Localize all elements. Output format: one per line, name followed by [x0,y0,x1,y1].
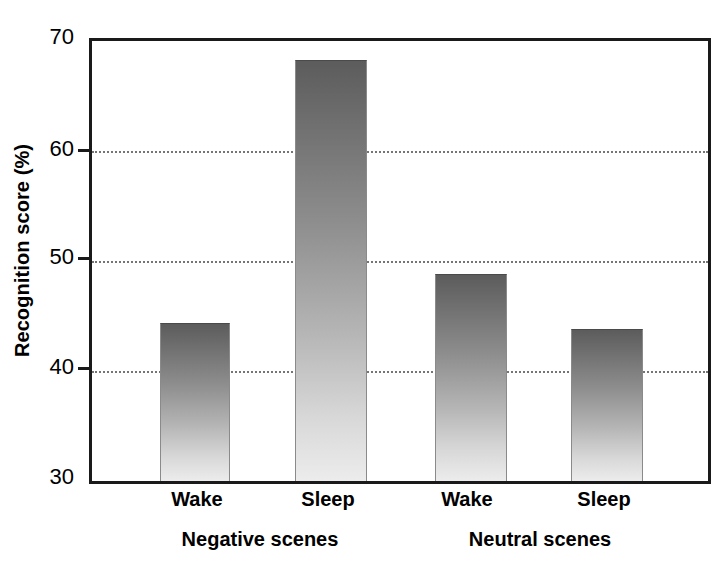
y-tick-mark-50 [78,257,89,260]
bar-negative-wake [160,323,230,481]
bar-neutral-sleep [571,329,643,481]
x-label-negative-wake: Wake [127,488,267,511]
y-tick-label-50: 50 [30,246,74,268]
y-tick-label-60: 60 [30,138,74,160]
y-tick-mark-40 [78,367,89,370]
y-axis-tick-labels: 70 60 50 40 30 [0,0,74,580]
gridline-50 [92,261,708,263]
x-label-negative-sleep: Sleep [258,488,398,511]
x-label-neutral-wake: Wake [397,488,537,511]
plot-area [89,38,711,484]
group-label-negative-scenes: Negative scenes [120,528,400,551]
group-label-neutral-scenes: Neutral scenes [400,528,680,551]
gridline-60 [92,151,708,153]
y-tick-mark-60 [78,149,89,152]
y-tick-label-70: 70 [30,26,74,48]
x-label-neutral-sleep: Sleep [534,488,674,511]
bar-neutral-wake [435,274,507,481]
plot-inner [92,41,708,481]
bar-negative-sleep [295,60,367,481]
y-tick-label-40: 40 [30,356,74,378]
y-tick-label-30: 30 [30,466,74,488]
bar-chart-figure: Recognition score (%) 70 60 50 40 30 Wak… [0,0,727,580]
